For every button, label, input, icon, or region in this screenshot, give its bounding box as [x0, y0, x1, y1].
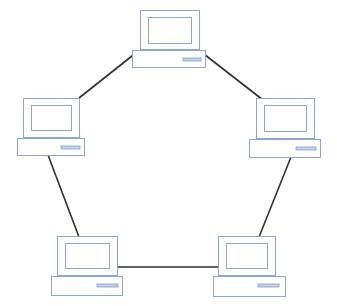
- drive-slot-icon: [97, 284, 118, 287]
- monitor-screen: [66, 244, 110, 269]
- network-links: [48, 51, 291, 267]
- link-top-to-right: [200, 51, 263, 100]
- monitor-screen: [227, 244, 268, 269]
- drive-slot-icon: [258, 284, 279, 287]
- drive-slot-icon: [296, 147, 316, 150]
- monitor-screen: [265, 106, 307, 132]
- computer-icon-top: [133, 11, 206, 68]
- link-top-to-left: [79, 52, 137, 98]
- computer-icon-bottom-right: [214, 237, 286, 297]
- link-right-to-bottom-right: [259, 157, 291, 237]
- monitor-screen: [149, 18, 192, 44]
- network-nodes: [18, 11, 321, 297]
- drive-slot-icon: [61, 146, 80, 149]
- computer-icon-left: [18, 99, 85, 156]
- computer-icon-right: [250, 99, 321, 158]
- link-left-to-bottom-left: [48, 155, 79, 237]
- drive-slot-icon: [183, 58, 201, 61]
- ring-network-diagram: [0, 0, 337, 306]
- computer-icon-bottom-left: [52, 237, 123, 296]
- monitor-screen: [32, 106, 72, 131]
